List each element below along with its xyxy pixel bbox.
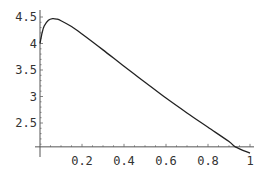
- x-tick-label: 0.8: [197, 154, 219, 168]
- data-curve: [40, 19, 250, 154]
- x-tick-label: 1: [246, 154, 253, 168]
- line-chart: 0.20.40.60.812.533.544.5: [0, 0, 266, 171]
- y-tick-label: 3: [30, 90, 37, 104]
- x-tick-label: 0.2: [71, 154, 93, 168]
- y-tick-label: 2.5: [15, 116, 37, 130]
- axes: [35, 10, 254, 157]
- x-tick-label: 0.6: [155, 154, 177, 168]
- x-tick-label: 0.4: [113, 154, 135, 168]
- tick-labels: 0.20.40.60.812.533.544.5: [15, 10, 253, 168]
- y-tick-label: 4.5: [15, 10, 37, 24]
- y-tick-label: 3.5: [15, 63, 37, 77]
- y-tick-label: 4: [30, 37, 37, 51]
